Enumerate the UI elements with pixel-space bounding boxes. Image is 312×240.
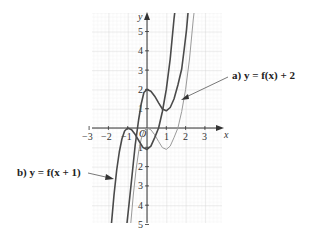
- y-tick-label: 5: [138, 26, 143, 37]
- x-tick-label: 3: [202, 131, 207, 142]
- x-axis-label: x: [223, 129, 229, 140]
- y-tick-label: 2: [138, 84, 143, 95]
- y-tick-label: 4: [138, 45, 143, 56]
- x-tick-label: −3: [82, 131, 93, 142]
- y-tick-label: 2: [138, 161, 143, 172]
- x-tick-label: 1: [164, 131, 169, 142]
- y-tick-label: 3: [138, 65, 143, 76]
- y-tick-label: 4: [138, 200, 143, 211]
- label-b: b) y = f(x + 1): [17, 166, 81, 178]
- x-tick-label: 2: [183, 131, 188, 142]
- x-tick-label: −2: [101, 131, 112, 142]
- graph-figure: x y O −3 −2 −1 1 2 3 5 4 3 2 1 1 2 3 4 5: [0, 0, 312, 240]
- y-tick-label: 3: [138, 180, 143, 191]
- grid: [92, 13, 222, 223]
- y-tick-label: 5: [138, 219, 143, 230]
- y-axis-label: y: [137, 11, 143, 22]
- label-a: a) y = f(x) + 2: [232, 69, 295, 81]
